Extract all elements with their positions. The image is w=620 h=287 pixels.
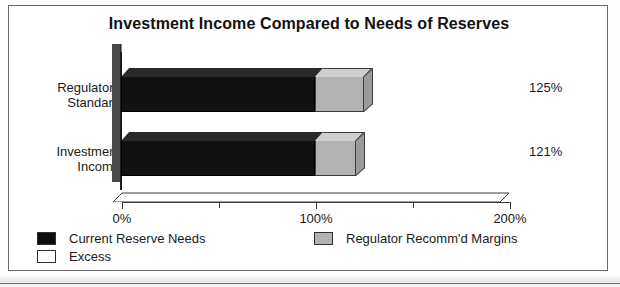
axis-floor-plane	[113, 182, 509, 202]
category-label-line-1: Regulatory	[57, 80, 120, 95]
legend-swatch-black-icon	[37, 232, 56, 245]
x-axis-tick	[510, 202, 511, 209]
x-axis-tick	[413, 202, 414, 208]
scan-artifact-band	[0, 274, 620, 287]
bar-segment-current-reserve-needs	[121, 140, 315, 176]
bar-segment-current-reserve-needs	[121, 76, 315, 112]
chart-frame: Investment Income Compared to Needs of R…	[8, 5, 608, 271]
scan-artifact-rule	[0, 283, 620, 284]
legend-swatch-white-icon	[37, 250, 56, 263]
plot-area: Regulatory Standard Investment Income	[9, 44, 609, 214]
category-label-line-2: Income	[0, 159, 120, 174]
legend-label: Excess	[69, 249, 111, 264]
category-label-line-1: Investment	[56, 144, 120, 159]
legend-label: Regulator Recomm'd Margins	[346, 231, 518, 246]
data-label-investment-income: 121%	[529, 144, 589, 159]
scanned-page: Investment Income Compared to Needs of R…	[0, 0, 620, 287]
bar-side-face	[356, 132, 365, 176]
x-axis-tick	[219, 202, 220, 208]
category-label-line-2: Standard	[0, 95, 120, 110]
legend-label: Current Reserve Needs	[69, 231, 206, 246]
legend-swatch-gray-icon	[314, 232, 333, 245]
bar-top-bevel-dark	[121, 68, 323, 77]
x-axis-tick-label: 200%	[475, 211, 545, 226]
category-label-regulatory-standard: Regulatory Standard	[0, 80, 120, 110]
x-axis-tick-label: 0%	[87, 211, 157, 226]
chart-legend: Current Reserve Needs Excess Regulator R…	[9, 231, 609, 271]
bar-segment-regulator-margins	[315, 140, 356, 176]
bar-side-face	[364, 68, 373, 112]
x-axis-tick	[122, 202, 123, 209]
x-axis-tick-label: 100%	[281, 211, 351, 226]
chart-title: Investment Income Compared to Needs of R…	[9, 15, 609, 33]
bar-top-bevel-dark	[121, 132, 323, 141]
data-label-regulatory-standard: 125%	[529, 80, 589, 95]
category-label-investment-income: Investment Income	[0, 144, 120, 174]
x-axis-tick	[316, 202, 317, 209]
bar-segment-regulator-margins	[315, 76, 364, 112]
